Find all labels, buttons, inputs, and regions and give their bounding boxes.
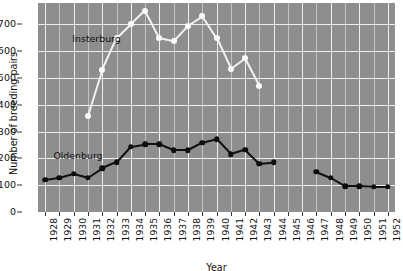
data-point-oldenburg: [42, 177, 48, 183]
data-point-oldenburg: [342, 183, 348, 189]
x-tick-label: 1945: [292, 218, 301, 241]
x-tick-label: 1940: [221, 218, 230, 241]
data-point-oldenburg: [57, 175, 63, 181]
x-tick-label: 1951: [378, 218, 387, 241]
x-tick-label: 1943: [263, 218, 272, 241]
x-tick-label: 1950: [363, 218, 372, 241]
x-tick-mark: [316, 212, 317, 216]
y-tick-label: 100: [0, 180, 16, 190]
data-point-oldenburg: [114, 160, 120, 166]
series-label-oldenburg: Oldenburg: [53, 149, 102, 160]
y-tick-label: 500: [0, 73, 16, 83]
data-point-oldenburg: [100, 166, 106, 172]
data-point-oldenburg: [85, 175, 91, 181]
data-point-oldenburg: [257, 161, 263, 167]
x-tick-mark: [45, 212, 46, 216]
data-point-oldenburg: [357, 183, 363, 189]
y-tick-mark: [17, 24, 22, 25]
x-tick-mark: [174, 212, 175, 216]
y-tick-label: 300: [0, 127, 16, 137]
y-tick-label: 600: [0, 46, 16, 56]
y-tick-mark: [17, 212, 22, 213]
y-tick-mark: [17, 104, 22, 105]
x-tick-label: 1939: [206, 218, 215, 241]
data-point-oldenburg: [271, 160, 277, 166]
data-point-oldenburg: [157, 142, 163, 148]
x-tick-mark: [188, 212, 189, 216]
x-tick-mark: [145, 212, 146, 216]
x-tick-label: 1928: [49, 218, 58, 241]
x-tick-mark: [231, 212, 232, 216]
y-tick-label: 0: [10, 207, 16, 217]
data-point-oldenburg: [328, 175, 334, 181]
x-tick-label: 1936: [163, 218, 172, 241]
x-tick-label: 1942: [249, 218, 258, 241]
y-tick-mark: [17, 131, 22, 132]
data-point-oldenburg: [385, 184, 391, 190]
x-tick-mark: [159, 212, 160, 216]
x-tick-label: 1934: [135, 218, 144, 241]
data-point-oldenburg: [171, 148, 177, 154]
x-tick-mark: [131, 212, 132, 216]
data-point-oldenburg: [242, 147, 248, 153]
x-tick-mark: [288, 212, 289, 216]
x-tick-mark: [359, 212, 360, 216]
x-tick-mark: [102, 212, 103, 216]
x-tick-mark: [331, 212, 332, 216]
x-tick-mark: [259, 212, 260, 216]
x-tick-mark: [345, 212, 346, 216]
x-tick-label: 1944: [278, 218, 287, 241]
data-point-oldenburg: [128, 144, 134, 150]
x-tick-mark: [245, 212, 246, 216]
x-tick-label: 1946: [306, 218, 315, 241]
data-point-oldenburg: [71, 171, 77, 177]
x-tick-label: 1935: [149, 218, 158, 241]
x-tick-label: 1952: [392, 218, 401, 241]
data-point-oldenburg: [214, 136, 220, 142]
x-tick-mark: [74, 212, 75, 216]
x-tick-label: 1941: [235, 218, 244, 241]
x-tick-label: 1929: [63, 218, 72, 241]
y-tick-label: 200: [0, 154, 16, 164]
data-point-oldenburg: [142, 142, 148, 148]
plot-area: Insterburg Oldenburg: [38, 3, 395, 212]
x-tick-mark: [202, 212, 203, 216]
x-tick-mark: [217, 212, 218, 216]
x-tick-label: 1948: [335, 218, 344, 241]
y-tick-label: 400: [0, 100, 16, 110]
x-axis-title: Year: [38, 262, 395, 271]
data-point-oldenburg: [199, 140, 205, 146]
x-tick-label: 1932: [106, 218, 115, 241]
x-tick-label: 1938: [192, 218, 201, 241]
x-tick-label: 1937: [178, 218, 187, 241]
y-tick-mark: [17, 158, 22, 159]
y-tick-mark: [17, 185, 22, 186]
x-tick-mark: [88, 212, 89, 216]
data-point-oldenburg: [371, 184, 377, 190]
x-tick-label: 1949: [349, 218, 358, 241]
chart-figure: Insterburg Oldenburg Number of breeding …: [0, 0, 403, 271]
x-tick-label: 1931: [92, 218, 101, 241]
data-point-oldenburg: [314, 169, 320, 175]
series-label-insterburg: Insterburg: [72, 33, 120, 44]
x-tick-mark: [117, 212, 118, 216]
x-tick-mark: [302, 212, 303, 216]
x-tick-label: 1930: [78, 218, 87, 241]
y-tick-label: 700: [0, 20, 16, 30]
x-tick-label: 1933: [121, 218, 130, 241]
data-point-oldenburg: [228, 152, 234, 158]
data-point-oldenburg: [185, 148, 191, 154]
x-tick-mark: [388, 212, 389, 216]
y-tick-mark: [17, 51, 22, 52]
x-tick-label: 1947: [320, 218, 329, 241]
x-tick-mark: [274, 212, 275, 216]
y-tick-mark: [17, 78, 22, 79]
x-tick-mark: [59, 212, 60, 216]
x-tick-mark: [374, 212, 375, 216]
y-axis: Number of breeding pairs 010020030040050…: [0, 0, 38, 215]
